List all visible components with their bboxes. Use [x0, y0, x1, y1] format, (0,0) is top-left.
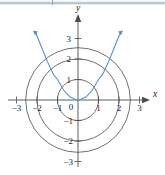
origin-label: 0: [69, 102, 74, 112]
parabola-right-arrowhead: [118, 31, 123, 36]
y-tick-label-1: 1: [67, 75, 72, 85]
parabola-left-arrowhead: [33, 31, 38, 36]
x-tick-label-1: 1: [96, 103, 101, 113]
x-tick-label-2: 2: [117, 103, 122, 113]
x-axis-arrowhead: [142, 97, 150, 104]
x-tick-label--2: −2: [32, 103, 42, 113]
x-axis-label: x: [152, 89, 158, 99]
y-tick-label-2: 2: [67, 54, 72, 64]
y-axis-arrowhead: [75, 14, 82, 22]
x-tick-label--3: −3: [12, 103, 22, 113]
x-tick-labels: −3 −2 −1 1 2 3: [12, 103, 143, 113]
y-tick-label--2: −2: [63, 136, 73, 146]
y-tick-label-3: 3: [67, 34, 72, 44]
y-axis-label: y: [75, 3, 81, 13]
y-tick-label--3: −3: [63, 157, 73, 167]
figure-root: −3 −2 −1 1 2 3 3 2 1 −1 −2 −3 0 x y: [0, 0, 165, 175]
x-tick-label--1: −1: [53, 103, 63, 113]
graph-canvas: −3 −2 −1 1 2 3 3 2 1 −1 −2 −3 0 x y: [0, 0, 165, 175]
y-axis: [75, 14, 82, 167]
y-tick-label--1: −1: [63, 116, 73, 126]
x-tick-label-3: 3: [137, 103, 142, 113]
